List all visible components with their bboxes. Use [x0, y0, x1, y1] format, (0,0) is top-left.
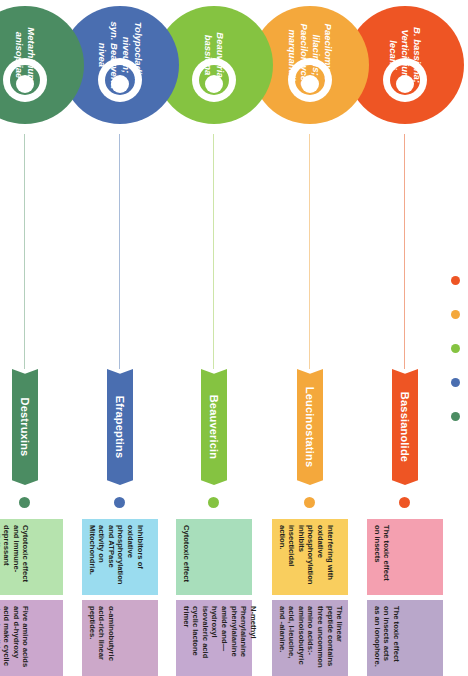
organism-label: B. bassiana; Verticillium lecanii [387, 20, 423, 90]
description-box: The toxic effect on insects acts as an i… [367, 600, 443, 676]
row-marker-dot [20, 497, 31, 508]
description-box: Five amino acids and d-hydroxy acid make… [0, 600, 63, 676]
description-boxes: The toxic effect on insects The toxic ef… [367, 519, 443, 676]
description-text: α-aminobutyric acid-rich linear peptides… [87, 606, 116, 670]
description-text: Five amino acids and d-hydroxy acid make… [0, 606, 30, 670]
metabolite-label: Bassianolide [399, 392, 411, 462]
diagram-row-row-leucinostatins: Paecilomyces lilacinus; Paecilomyces mar… [269, 0, 351, 676]
diagram-row-row-beauvericin: Beauveria bassiana Beauvericin Cytotoxic… [173, 0, 255, 676]
row-marker-dot [115, 497, 126, 508]
color-legend [451, 276, 460, 421]
organism-label: Tolypocladium niveum; syn. Beauveria niv… [96, 20, 144, 90]
legend-dot-2 [451, 310, 460, 319]
metabolite-ribbon[interactable]: Leucinostatins [297, 369, 323, 485]
row-marker-dot [400, 497, 411, 508]
description-boxes: Cytotoxic effect and immune-depressant a… [0, 519, 63, 676]
connector-line [310, 134, 311, 369]
description-box: Interfering with oxidative phosphorylati… [272, 519, 348, 595]
description-text: Interfering with oxidative phosphorylati… [277, 525, 335, 589]
legend-dot-3 [451, 344, 460, 353]
organism-label: Beauveria bassiana [202, 20, 226, 90]
legend-dot-5 [451, 412, 460, 421]
legend-dot-1 [451, 276, 460, 285]
metabolite-ribbon[interactable]: Bassianolide [392, 369, 418, 485]
description-boxes: Inhibitors of oxidative phosphorylation … [82, 519, 158, 676]
description-box: The linear peptide contains three uncomm… [272, 600, 348, 676]
metabolite-ribbon[interactable]: Efrapeptins [107, 369, 133, 485]
infographic-stage: B. bassiana; Verticillium lecanii Bassia… [0, 0, 468, 676]
description-text: The toxic effect on insects [372, 525, 391, 589]
row-marker-dot [305, 497, 316, 508]
organism-node[interactable]: Metarhizium anisopliae [0, 6, 84, 134]
diagram-row-row-efrapeptins: Tolypocladium niveum; syn. Beauveria niv… [79, 0, 161, 676]
description-text: The toxic effect on insects acts as an i… [372, 606, 401, 670]
description-boxes: Cytotoxic effect N-methyl Phenylalanine … [176, 519, 252, 676]
description-text: Cytotoxic effect [181, 525, 191, 582]
description-text: The linear peptide contains three uncomm… [277, 606, 344, 670]
description-text: N-methyl Phenylalanine phenylalanine ami… [181, 606, 258, 670]
connector-line [120, 134, 121, 369]
description-text: Cytotoxic effect and immune-depressant a… [0, 525, 30, 589]
diagram-row-row-bassianolide: B. bassiana; Verticillium lecanii Bassia… [364, 0, 446, 676]
diagram-row-row-destruxins: Metarhizium anisopliae Destruxins Cytoto… [0, 0, 66, 676]
metabolite-label: Destruxins [19, 398, 31, 457]
connector-line [214, 134, 215, 369]
metabolite-label: Leucinostatins [304, 387, 316, 467]
description-text: Inhibitors of oxidative phosphorylation … [87, 525, 145, 589]
metabolite-ribbon[interactable]: Beauvericin [201, 369, 227, 485]
metabolite-label: Beauvericin [208, 395, 220, 460]
description-boxes: Interfering with oxidative phosphorylati… [272, 519, 348, 676]
connector-line [405, 134, 406, 369]
description-box: The toxic effect on insects [367, 519, 443, 595]
organism-label: Metarhizium anisopliae [13, 20, 37, 90]
row-marker-dot [209, 497, 220, 508]
description-box: N-methyl Phenylalanine phenylalanine ami… [176, 600, 252, 676]
organism-label: Paecilomyces lilacinus; Paecilomyces mar… [286, 20, 334, 90]
metabolite-ribbon[interactable]: Destruxins [12, 369, 38, 485]
description-box: Inhibitors of oxidative phosphorylation … [82, 519, 158, 595]
legend-dot-4 [451, 378, 460, 387]
description-box: Cytotoxic effect and immune-depressant a… [0, 519, 63, 595]
description-box: α-aminobutyric acid-rich linear peptides… [82, 600, 158, 676]
connector-line [25, 134, 26, 369]
description-box: Cytotoxic effect [176, 519, 252, 595]
metabolite-label: Efrapeptins [114, 396, 126, 459]
